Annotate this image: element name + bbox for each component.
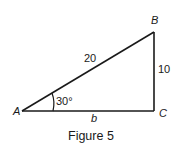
- right-triangle-diagram: A B C 20 10 b 30° Figure 5: [0, 0, 176, 147]
- figure-caption: Figure 5: [68, 129, 114, 143]
- vertex-label-a: A: [12, 105, 20, 117]
- angle-label-a: 30°: [56, 95, 73, 107]
- vertex-label-b: B: [151, 14, 158, 26]
- side-ab-hypotenuse: [22, 32, 154, 111]
- vertex-label-c: C: [159, 107, 167, 119]
- angle-arc-a: [52, 93, 54, 111]
- side-label-base: b: [91, 112, 97, 124]
- side-label-vertical: 10: [158, 63, 170, 75]
- side-label-hypotenuse: 20: [84, 52, 96, 64]
